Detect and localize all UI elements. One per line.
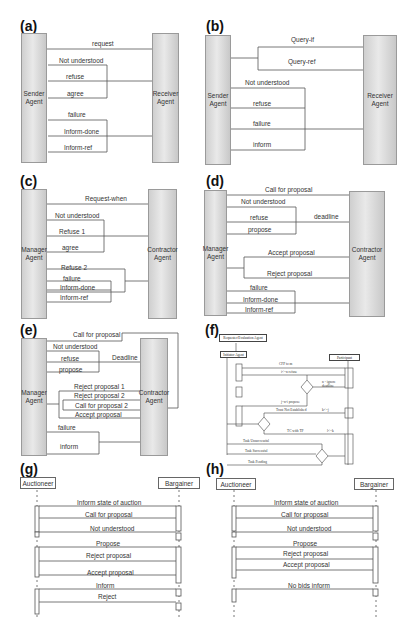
auctioneer-h: Auctioneer <box>216 478 256 490</box>
msg-propose-h: Propose <box>293 540 317 547</box>
panel-h-sequence <box>0 0 415 634</box>
msg-reject-proposal-h: Reject proposal <box>283 550 328 557</box>
msg-cfp-h: Call for proposal <box>281 511 328 518</box>
msg-accept-proposal-h: Accept proposal <box>283 561 330 568</box>
bargainer-h: Bargainer <box>354 478 394 490</box>
msg-inform-state-h: Inform state of auction <box>274 499 338 506</box>
msg-no-bids-inform: No bids inform <box>288 582 330 589</box>
msg-not-understood-h: Not understood <box>287 525 331 532</box>
